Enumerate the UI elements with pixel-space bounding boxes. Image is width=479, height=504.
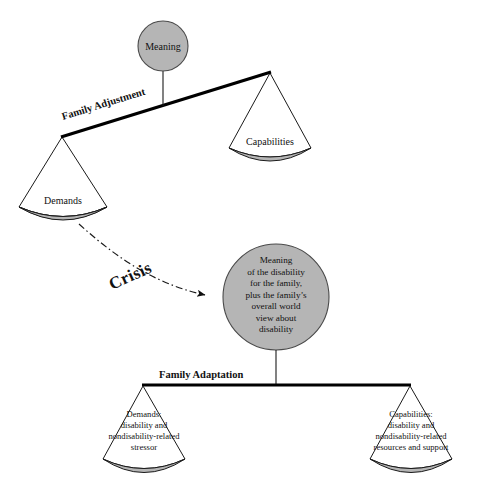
lower-right-pan-line-1: Capabilities: (389, 409, 432, 419)
center-node-line-6: view about (256, 313, 297, 323)
lower-left-pan-line-2: disability and (121, 420, 168, 430)
upper-left-pan-demands: Demands (19, 137, 107, 220)
lower-right-pan-line-3: nondisability-related (375, 431, 447, 441)
family-adjustment-adaptation-diagram: Demands Capabilities Meaning Family Adju… (0, 0, 479, 504)
center-node-line-2: of the disability (247, 267, 305, 277)
crisis-transition-group: Crisis (79, 224, 205, 295)
lower-scale-group: Demands: disability and nondisability-re… (103, 350, 452, 473)
center-node-line-7: disability (259, 324, 294, 334)
center-node-line-1: Meaning (260, 255, 293, 265)
diagram-canvas: Demands Capabilities Meaning Family Adju… (0, 0, 479, 504)
upper-beam-label: Family Adjustment (60, 86, 146, 122)
lower-left-pan-line-3: nondisability-related (108, 431, 180, 441)
lower-left-pan-demands: Demands: disability and nondisability-re… (103, 386, 185, 473)
upper-right-pan-label: Capabilities (246, 136, 294, 147)
lower-beam-label: Family Adaptation (159, 369, 243, 380)
lower-left-pan-line-4: stressor (131, 442, 157, 452)
upper-scale-group: Demands Capabilities Meaning Family Adju… (19, 21, 311, 220)
lower-left-pan-line-1: Demands: (127, 409, 162, 419)
lower-right-pan-line-4: resources and support (374, 442, 450, 452)
lower-right-pan-line-2: disability and (388, 420, 435, 430)
meaning-node-label: Meaning (145, 41, 181, 52)
upper-left-pan-label: Demands (44, 195, 82, 206)
lower-right-pan-capabilities: Capabilities: disability and nondisabili… (370, 386, 452, 473)
center-meaning-node: Meaning of the disability for the family… (223, 244, 329, 350)
upper-right-pan-capabilities: Capabilities (229, 73, 311, 161)
center-node-line-3: for the family, (250, 278, 302, 288)
center-node-line-5: overall world (251, 301, 301, 311)
center-node-line-4: plus the family’s (245, 290, 307, 300)
